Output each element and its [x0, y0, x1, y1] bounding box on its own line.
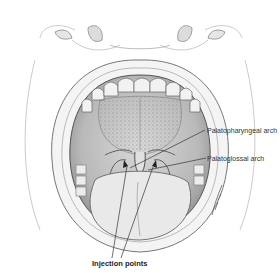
label-palatoglossal-arch: Palatoglossal arch: [207, 155, 264, 162]
oral-anatomy-figure: Palatopharyngeal arch Palatoglossal arch…: [0, 0, 280, 273]
label-palatopharyngeal-arch: Palatopharyngeal arch: [207, 127, 277, 134]
mouth-illustration: [0, 0, 280, 273]
label-injection-points: Injection points: [92, 260, 147, 268]
